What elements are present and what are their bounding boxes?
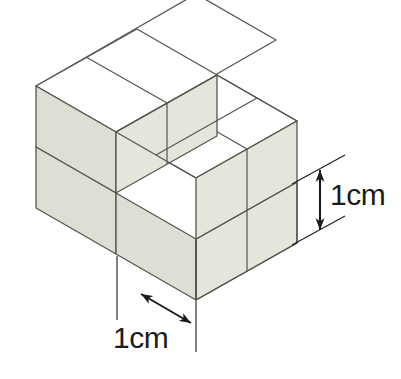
height-extension-lower — [292, 216, 345, 245]
depth-dimension-label: 1cm — [113, 323, 168, 353]
left-face-front-step — [116, 193, 196, 300]
depth-arrow — [141, 294, 191, 323]
isometric-figure: 1cm 1cm — [0, 0, 401, 379]
cube-solid — [36, 0, 377, 300]
height-dimension-label: 1cm — [330, 180, 385, 210]
